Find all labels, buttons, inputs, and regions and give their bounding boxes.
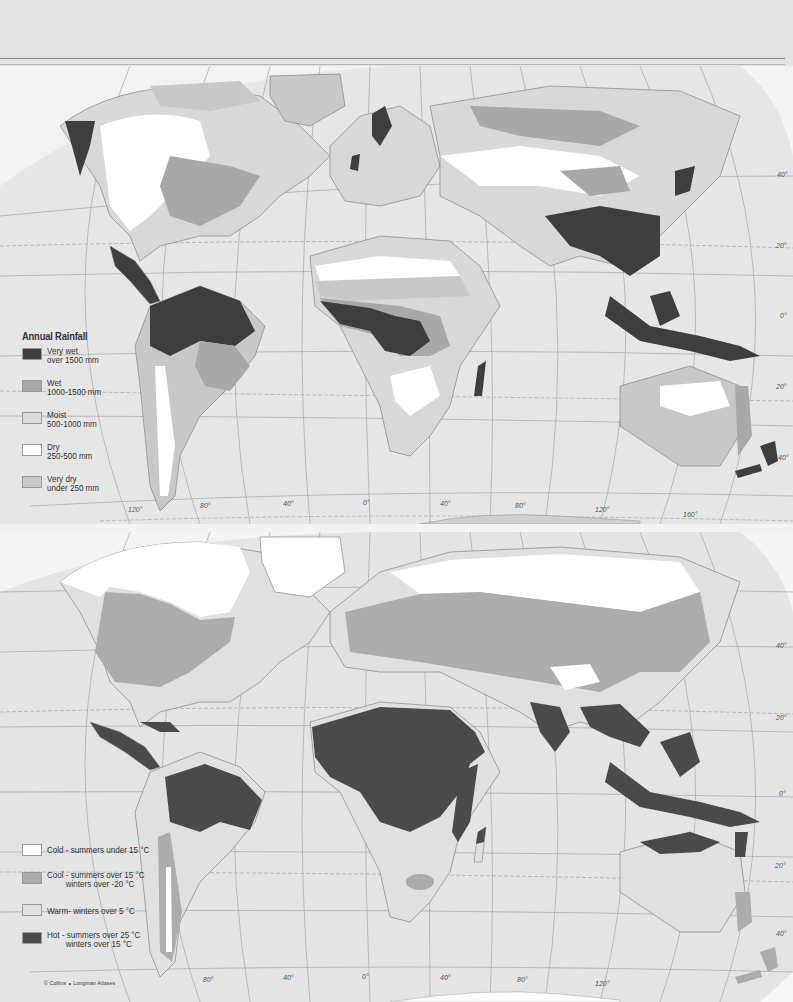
latitude-label: 0° — [779, 790, 786, 797]
legend-item-wet: Wet1000-1500 mm — [22, 378, 111, 396]
legend-item-cold: Cold - summers under 15 °C — [22, 842, 167, 856]
longitude-label: 40° — [283, 974, 294, 981]
legend-label: over 1500 mm — [47, 355, 99, 364]
latitude-label: 20° — [776, 383, 787, 390]
legend-label: 250-500 mm — [47, 451, 92, 460]
legend-label: winters over -20 °C — [47, 879, 144, 888]
divider-line — [0, 58, 785, 59]
legend-item-warm: Warm- winters over 5 °C — [22, 902, 167, 916]
legend-swatch — [22, 444, 42, 456]
legend-item-cool: Cool - summers over 15 °Cwinters over -2… — [22, 870, 167, 888]
rainfall-map-graphic — [0, 66, 793, 524]
legend-label: 1000-1500 mm — [47, 387, 101, 396]
legend-label: 500-1000 mm — [47, 419, 97, 428]
legend-label: Cold - summers under 15 °C — [47, 845, 149, 854]
longitude-label: 120° — [595, 980, 609, 987]
legend-label: under 250 mm — [47, 483, 99, 492]
legend-swatch — [22, 904, 42, 916]
rainfall-legend: Annual Rainfall Very wetover 1500 mm Wet… — [22, 330, 111, 492]
legend-swatch — [22, 476, 42, 488]
legend-item-hot: Hot - summers over 25 °Cwinters over 15 … — [22, 930, 167, 948]
legend-title: Annual Rainfall — [22, 330, 98, 342]
latitude-label: 40° — [776, 930, 787, 937]
longitude-label: 0° — [362, 973, 369, 980]
legend-label: winters over 15 °C — [47, 939, 140, 948]
longitude-label: 80° — [203, 976, 214, 983]
longitude-label: 80° — [200, 502, 211, 509]
temperature-map: Cold - summers under 15 °C Cool - summer… — [0, 532, 793, 1002]
latitude-label: 40° — [776, 642, 787, 649]
temperature-legend: Cold - summers under 15 °C Cool - summer… — [22, 842, 167, 948]
longitude-label: 0° — [363, 499, 370, 506]
longitude-label: 120° — [128, 506, 142, 513]
legend-swatch — [22, 872, 42, 884]
longitude-label: 40° — [440, 500, 451, 507]
latitude-label: 40° — [778, 454, 789, 461]
longitude-label: 120° — [595, 506, 609, 513]
legend-label: Warm- winters over 5 °C — [47, 906, 135, 915]
map-separator — [0, 524, 793, 532]
copyright-credit: © Collins ∘ Longman Atlases — [44, 980, 115, 986]
legend-swatch — [22, 844, 42, 856]
latitude-label: 40° — [777, 171, 788, 178]
legend-swatch — [22, 932, 42, 944]
longitude-label: 40° — [440, 974, 451, 981]
rainfall-map: Annual Rainfall Very wetover 1500 mm Wet… — [0, 66, 793, 524]
legend-item-moist: Moist500-1000 mm — [22, 410, 111, 428]
longitude-label: 40° — [283, 500, 294, 507]
longitude-label: 80° — [517, 976, 528, 983]
latitude-label: 20° — [776, 714, 787, 721]
legend-item-dry: Dry250-500 mm — [22, 442, 111, 460]
legend-swatch — [22, 348, 42, 360]
legend-swatch — [22, 412, 42, 424]
page-header-area — [0, 0, 793, 58]
legend-swatch — [22, 380, 42, 392]
legend-item-very-wet: Very wetover 1500 mm — [22, 346, 111, 364]
latitude-label: 20° — [775, 862, 786, 869]
longitude-label: 80° — [515, 502, 526, 509]
longitude-label: 160° — [683, 511, 697, 518]
divider-line — [0, 64, 785, 65]
legend-item-very-dry: Very dryunder 250 mm — [22, 474, 111, 492]
latitude-label: 20° — [776, 242, 787, 249]
latitude-label: 0° — [780, 312, 787, 319]
